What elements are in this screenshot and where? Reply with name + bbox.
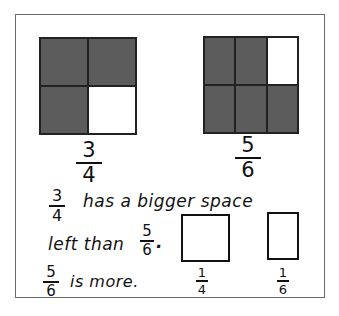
one-fourth-label: 1 4 — [196, 266, 208, 296]
grid-cell-empty — [267, 37, 298, 85]
denominator: 6 — [46, 284, 56, 299]
line2-period: . — [156, 232, 163, 252]
three-fourths-grid — [39, 37, 137, 135]
grid-cell-shaded — [235, 37, 266, 85]
numerator: 3 — [52, 188, 62, 204]
grid-cell-shaded — [267, 85, 298, 133]
numerator: 1 — [279, 266, 287, 279]
grid-cell-shaded — [40, 86, 88, 134]
grid-cell-shaded — [40, 38, 88, 86]
numerator: 1 — [198, 266, 206, 279]
numerator: 5 — [46, 265, 56, 280]
grid-cell-shaded — [204, 85, 235, 133]
line3-text: is more. — [70, 272, 139, 291]
line3-fraction: 5 6 — [43, 265, 59, 299]
line1-fraction: 3 4 — [49, 188, 65, 224]
grid-cell-shaded — [235, 85, 266, 133]
denominator: 6 — [142, 243, 152, 258]
denominator: 4 — [52, 208, 62, 224]
grid-cell-shaded — [204, 37, 235, 85]
denominator: 4 — [82, 165, 95, 186]
numerator: 5 — [241, 135, 254, 156]
denominator: 6 — [279, 283, 287, 296]
one-sixth-label: 1 6 — [277, 266, 289, 296]
grid-cell-empty — [88, 86, 136, 134]
one-fourth-remainder-box — [181, 214, 230, 262]
grid-cell-shaded — [88, 38, 136, 86]
denominator: 6 — [241, 160, 254, 181]
five-sixths-label: 5 6 — [235, 135, 261, 181]
five-sixths-grid — [203, 36, 299, 134]
line2-fraction: 5 6 — [140, 224, 154, 258]
one-sixth-remainder-box — [267, 212, 299, 260]
numerator: 3 — [82, 140, 95, 161]
line2-text: left than — [48, 234, 124, 254]
denominator: 4 — [198, 283, 206, 296]
line1-text: has a bigger space — [83, 191, 253, 211]
numerator: 5 — [142, 224, 152, 239]
three-fourths-label: 3 4 — [76, 140, 102, 186]
